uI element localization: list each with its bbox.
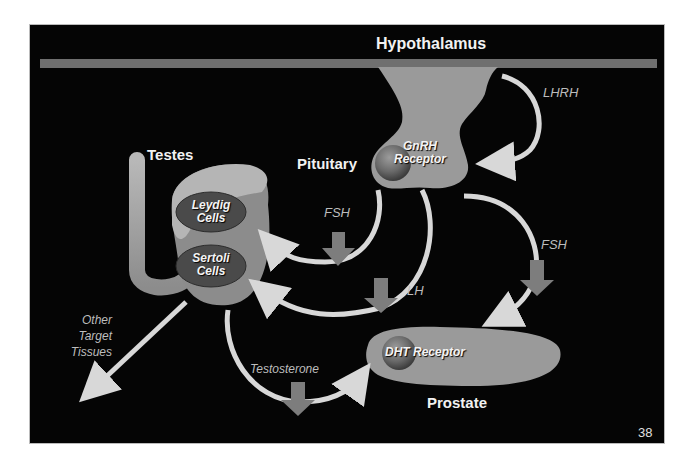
slide-page-number: 38: [638, 425, 652, 440]
fsh-to-testes-arrow: [268, 190, 380, 262]
leydig-label-line2: Cells: [181, 212, 241, 225]
other-label-line1: Other: [60, 312, 112, 328]
testes-label: Testes: [147, 146, 193, 163]
fsh-testes-label: FSH: [324, 205, 350, 220]
leydig-label-line1: Leydig: [181, 199, 241, 212]
leydig-cells-label: Leydig Cells: [181, 199, 241, 224]
hormone-pathway-diagram: [0, 0, 687, 472]
other-label-line2: Target: [60, 328, 112, 344]
hypothalamus-label: Hypothalamus: [376, 35, 486, 53]
prostate-label: Prostate: [427, 394, 487, 411]
sertoli-cells-label: Sertoli Cells: [181, 252, 241, 277]
other-target-tissues-label: Other Target Tissues: [60, 312, 112, 361]
other-label-line3: Tissues: [60, 344, 112, 360]
sertoli-label-line1: Sertoli: [181, 252, 241, 265]
lh-label: LH: [407, 283, 424, 298]
gnrh-receptor-label: GnRH Receptor: [385, 140, 455, 165]
fsh-to-prostate-arrow: [464, 196, 536, 320]
sertoli-label-line2: Cells: [181, 265, 241, 278]
gnrh-label-line1: GnRH: [385, 140, 455, 153]
lhrh-arrow: [490, 76, 539, 163]
dht-receptor-label: DHT Receptor: [385, 346, 465, 359]
testosterone-label: Testosterone: [250, 362, 319, 376]
fsh-block-arrow-prostate: [520, 260, 554, 296]
pituitary-label: Pituitary: [297, 155, 357, 172]
lhrh-label: LHRH: [543, 85, 578, 100]
fsh-prostate-label: FSH: [541, 237, 567, 252]
hypothalamus-band: [40, 59, 657, 68]
gnrh-label-line2: Receptor: [385, 153, 455, 166]
lh-block-arrow: [364, 278, 398, 313]
